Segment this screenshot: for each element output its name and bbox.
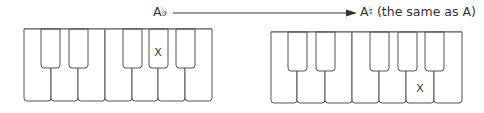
black-key <box>123 29 142 68</box>
black-key <box>41 29 60 68</box>
black-key <box>398 32 417 71</box>
from-note-label: A♭ <box>153 5 167 19</box>
black-key <box>425 32 444 71</box>
black-key <box>316 32 335 71</box>
arrow-head-icon <box>346 10 357 17</box>
black-key <box>288 32 307 71</box>
black-key <box>69 29 88 68</box>
to-note-label: A♮ (the same as A) <box>360 5 476 19</box>
black-key <box>370 32 389 71</box>
key-mark-x: X <box>416 82 424 95</box>
black-key <box>176 29 195 68</box>
key-mark-x: X <box>154 46 162 59</box>
